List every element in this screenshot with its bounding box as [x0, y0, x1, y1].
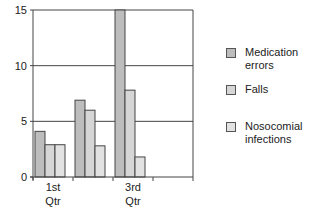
- bar: [125, 90, 135, 177]
- legend-label: Nosocomialinfections: [245, 120, 315, 146]
- legend-item-falls: Falls: [226, 83, 315, 96]
- x-tick-label: 1st: [46, 181, 61, 193]
- bar: [35, 131, 45, 177]
- legend-item-nosocomial-infections: Nosocomialinfections: [226, 120, 315, 146]
- y-tick-label: 15: [15, 4, 27, 16]
- bar-chart: 051015 1stQtr3rdQtr: [0, 0, 322, 218]
- legend-swatch-icon: [226, 48, 236, 58]
- bar: [55, 145, 65, 177]
- bar: [95, 146, 105, 177]
- bar: [115, 10, 125, 177]
- bar: [135, 157, 145, 177]
- bar: [75, 100, 85, 177]
- x-tick-label: 3rd: [125, 181, 141, 193]
- y-tick-label: 0: [21, 171, 27, 183]
- gridlines: [33, 10, 193, 121]
- x-axis-tick-labels: 1stQtr3rdQtr: [45, 181, 141, 207]
- bar: [85, 110, 95, 177]
- y-tick-label: 5: [21, 115, 27, 127]
- y-axis-tick-labels: 051015: [15, 4, 27, 183]
- y-tick-label: 10: [15, 60, 27, 72]
- legend-label: Falls: [245, 83, 315, 96]
- legend-item-medication-errors: Medicationerrors: [226, 46, 315, 72]
- x-tick-label: Qtr: [45, 195, 61, 207]
- x-tick-label: Qtr: [125, 195, 141, 207]
- legend-label: Medicationerrors: [245, 46, 315, 72]
- legend-swatch-icon: [226, 85, 236, 95]
- bar: [45, 145, 55, 177]
- bars: [35, 10, 145, 177]
- legend-swatch-icon: [226, 122, 236, 132]
